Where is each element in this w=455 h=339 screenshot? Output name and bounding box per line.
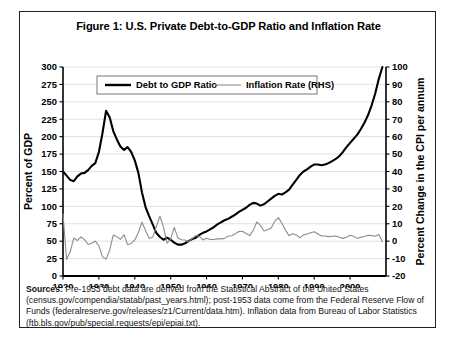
y-axis-left-tick-label: 50 [47,235,57,246]
y-axis-left-tick-label: 250 [41,96,57,107]
y-axis-right-title: Percent Change in the CPI per annum [414,78,426,266]
y-axis-left-tick-label: 125 [41,183,57,194]
y-axis-right-tick-label: -20 [392,270,406,281]
y-axis-right-tick-label: 0 [392,235,397,246]
sources-note: Sources: Pre-1953 debt data are derived … [26,284,431,329]
chart-svg: 0255075100125150175200225250275300-20-10… [20,38,437,288]
y-axis-right-tick-label: -10 [392,253,406,264]
figure-container: Figure 1: U.S. Private Debt-to-GDP Ratio… [19,11,436,328]
y-axis-right-tick-label: 90 [392,79,402,90]
y-axis-left-tick-label: 275 [41,79,57,90]
y-axis-left-tick-label: 200 [41,131,57,142]
y-axis-left-tick-label: 150 [41,166,57,177]
y-axis-left-tick-label: 0 [52,270,57,281]
y-axis-right-tick-label: 30 [392,183,402,194]
y-axis-right-tick-label: 40 [392,166,402,177]
y-axis-left-title: Percent of GDP [22,133,34,210]
y-axis-left-tick-label: 175 [41,148,57,159]
y-axis-right-tick-label: 50 [392,148,402,159]
y-axis-left-tick-label: 100 [41,201,57,212]
legend-label-debt-to-gdp: Debt to GDP Ratio [136,79,217,90]
sources-label: Sources: [26,284,63,294]
y-axis-left-tick-label: 75 [47,218,57,229]
y-axis-left-tick-label: 300 [41,61,57,72]
y-axis-right-tick-label: 80 [392,96,402,107]
y-axis-right-tick-label: 60 [392,131,402,142]
legend-label-inflation-rate: Inflation Rate (RHS) [246,79,334,90]
y-axis-right-tick-label: 20 [392,201,402,212]
figure-title: Figure 1: U.S. Private Debt-to-GDP Ratio… [20,20,437,32]
y-axis-left-tick-label: 25 [47,253,57,264]
sources-text: Pre-1953 debt data are derived from the … [26,284,424,328]
y-axis-left-tick-label: 225 [41,114,57,125]
y-axis-right-tick-label: 10 [392,218,402,229]
y-axis-right-tick-label: 70 [392,114,402,125]
chart-plot-area: 0255075100125150175200225250275300-20-10… [20,38,437,288]
y-axis-right-tick-label: 100 [392,61,408,72]
